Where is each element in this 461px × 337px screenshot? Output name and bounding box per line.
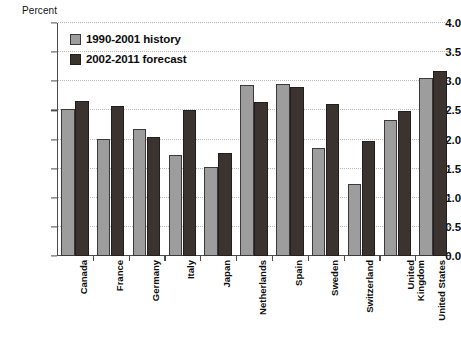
x-axis-category-separator <box>379 256 380 261</box>
y-axis-tick-mark <box>51 168 57 169</box>
x-axis-category-label: France <box>115 260 125 334</box>
bar-forecast <box>254 102 268 256</box>
y-axis-tick-mark <box>51 197 57 198</box>
x-axis-category-label: Sweden <box>330 260 340 334</box>
y-axis-tick-mark <box>51 139 57 140</box>
x-axis-category-separator <box>164 256 165 261</box>
x-axis-category-separator <box>236 256 237 261</box>
bar-history <box>348 184 362 256</box>
gridline <box>58 22 451 24</box>
x-axis-category-label: Canada <box>79 260 89 334</box>
x-axis-category-separator <box>129 256 130 261</box>
x-axis-category-label: Switzerland <box>365 260 375 334</box>
bar-forecast <box>326 104 340 256</box>
x-axis-category-label: United Kingdom <box>406 260 426 334</box>
legend-label-forecast: 2002-2011 forecast <box>86 53 187 65</box>
x-axis-category-separator <box>272 256 273 261</box>
bar-forecast <box>362 141 376 256</box>
x-axis-category-label: Germany <box>151 260 161 334</box>
x-axis-category-label: Japan <box>222 260 232 334</box>
bar-history <box>61 109 75 256</box>
bar-history <box>133 129 147 256</box>
bar-history <box>276 84 290 256</box>
x-axis-category-label: Netherlands <box>258 260 268 334</box>
legend-swatch-history-icon <box>70 34 81 45</box>
bar-history <box>312 148 326 256</box>
bar-forecast <box>433 71 447 256</box>
bar-history <box>169 155 183 256</box>
x-axis-category-label: Spain <box>294 260 304 334</box>
bar-forecast <box>147 137 161 256</box>
bar-history <box>384 120 398 256</box>
y-axis-tick-mark <box>51 255 57 256</box>
y-axis-unit-label: Percent <box>22 5 57 16</box>
bar-forecast <box>218 153 232 256</box>
x-axis-category-label: United States <box>437 260 447 334</box>
x-axis-category-separator <box>93 256 94 261</box>
legend-swatch-forecast-icon <box>70 54 81 65</box>
legend-label-history: 1990-2001 history <box>86 33 181 45</box>
gridline <box>58 80 451 82</box>
bar-history <box>419 78 433 256</box>
x-axis-category-label: Italy <box>186 260 196 334</box>
x-axis-category-separator <box>200 256 201 261</box>
y-axis-tick-mark <box>51 81 57 82</box>
bar-forecast <box>398 111 412 256</box>
legend-item-history: 1990-2001 history <box>70 30 187 48</box>
y-axis-tick-mark <box>51 22 57 23</box>
y-axis-tick-mark <box>51 52 57 53</box>
y-axis-tick-mark <box>51 226 57 227</box>
x-axis-category-separator <box>344 256 345 261</box>
bar-history <box>204 167 218 256</box>
legend-item-forecast: 2002-2011 forecast <box>70 50 187 68</box>
bar-forecast <box>183 110 197 256</box>
bar-history <box>97 139 111 256</box>
bar-history <box>240 85 254 256</box>
x-axis-category-separator <box>308 256 309 261</box>
x-axis-category-separator <box>415 256 416 261</box>
bar-forecast <box>75 101 89 256</box>
bar-chart: Percent 0.00.51.01.52.02.53.03.54.0 Cana… <box>0 0 461 337</box>
bar-forecast <box>111 106 125 256</box>
legend: 1990-2001 history 2002-2011 forecast <box>70 30 187 70</box>
y-axis-tick-mark <box>51 110 57 111</box>
bar-forecast <box>290 87 304 256</box>
